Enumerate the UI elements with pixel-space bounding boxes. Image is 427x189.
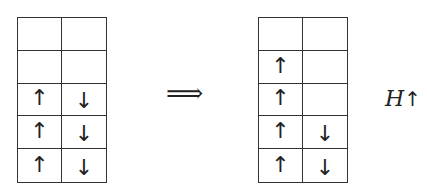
spin-down-icon: ↓ xyxy=(316,123,334,145)
grid-cell xyxy=(62,51,106,84)
implies-arrow-icon: ⟹ xyxy=(166,80,203,106)
spin-down-icon: ↓ xyxy=(75,157,93,179)
spin-up-icon: ↑ xyxy=(271,87,289,109)
grid-cell xyxy=(303,84,347,117)
grid-cell: ↑ xyxy=(259,84,303,117)
grid-cell: ↑ xyxy=(259,149,303,182)
grid-cell xyxy=(62,18,106,51)
spin-up-icon: ↑ xyxy=(271,154,289,176)
grid-cell xyxy=(303,18,347,51)
right-spin-grid: ↑ ↑ ↑ ↓ ↑ ↓ xyxy=(258,17,348,183)
grid-cell: ↑ xyxy=(18,84,62,117)
operation-label: H↑ xyxy=(385,88,421,110)
spin-up-icon: ↑ xyxy=(30,87,48,109)
grid-cell xyxy=(18,18,62,51)
operator-symbol: H xyxy=(385,86,404,111)
grid-cell xyxy=(18,51,62,84)
grid-cell: ↓ xyxy=(303,116,347,149)
grid-cell: ↓ xyxy=(62,116,106,149)
grid-cell: ↓ xyxy=(62,149,106,182)
grid-cell xyxy=(259,18,303,51)
spin-up-icon: ↑ xyxy=(271,120,289,142)
spin-up-icon: ↑ xyxy=(30,120,48,142)
spin-up-icon: ↑ xyxy=(404,87,421,111)
grid-cell xyxy=(303,51,347,84)
spin-up-icon: ↑ xyxy=(271,55,289,77)
spin-down-icon: ↓ xyxy=(316,157,334,179)
grid-cell: ↓ xyxy=(303,149,347,182)
grid-cell: ↑ xyxy=(259,116,303,149)
spin-up-icon: ↑ xyxy=(30,154,48,176)
grid-cell: ↓ xyxy=(62,84,106,117)
spin-down-icon: ↓ xyxy=(75,123,93,145)
grid-cell: ↑ xyxy=(18,149,62,182)
grid-cell: ↑ xyxy=(18,116,62,149)
spin-down-icon: ↓ xyxy=(75,90,93,112)
grid-cell: ↑ xyxy=(259,51,303,84)
left-spin-grid: ↑ ↓ ↑ ↓ ↑ ↓ xyxy=(17,17,107,183)
